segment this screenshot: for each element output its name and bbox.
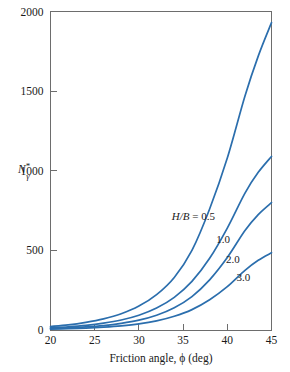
chart-figure: 0500100015002000 202530354045 H/B = 0.51… xyxy=(0,0,290,372)
y-axis-ticks xyxy=(51,91,57,250)
y-tick-label: 2000 xyxy=(21,6,44,18)
x-tick-label: 25 xyxy=(89,334,101,346)
x-axis-title-text: Friction angle, ϕ (deg) xyxy=(109,352,212,365)
x-axis-title: Friction angle, ϕ (deg) xyxy=(109,352,212,365)
svg-text:N*γ: N*γ xyxy=(17,161,31,181)
chart-svg: 0500100015002000 202530354045 H/B = 0.51… xyxy=(0,0,290,372)
curve-label: 3.0 xyxy=(237,271,251,283)
x-tick-label: 40 xyxy=(222,334,234,346)
x-tick-label: 45 xyxy=(266,334,278,346)
x-tick-label: 35 xyxy=(177,334,189,346)
y-tick-label: 500 xyxy=(26,244,44,256)
x-axis-tick-labels: 202530354045 xyxy=(45,334,278,346)
x-tick-label: 20 xyxy=(45,334,57,346)
x-tick-label: 30 xyxy=(133,334,145,346)
y-tick-label: 0 xyxy=(38,324,44,336)
curve-annotations: H/B = 0.51.02.03.0 xyxy=(171,210,251,283)
curve-label: H/B = 0.5 xyxy=(171,210,216,222)
curve-label: 2.0 xyxy=(226,253,240,265)
y-tick-label: 1500 xyxy=(21,85,44,97)
curve-label: 1.0 xyxy=(216,233,230,245)
data-curve xyxy=(51,203,272,329)
y-axis-title-superscript: * xyxy=(26,161,31,171)
y-axis-title: N*γ xyxy=(17,161,31,181)
